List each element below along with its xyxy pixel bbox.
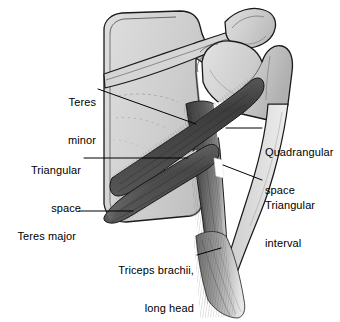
label-triangular-interval-line1: Triangular [265, 199, 335, 212]
label-triangular-interval: Triangular interval [265, 174, 335, 274]
label-quadrangular-space-line1: Quadrangular [265, 146, 340, 159]
label-triceps-line1: Triceps brachii, [112, 264, 194, 277]
label-triceps-line2: long head [112, 302, 194, 315]
label-triangular-interval-line2: interval [265, 237, 335, 250]
anatomical-figure: Teres minor Triangular space Teres major… [0, 0, 340, 322]
label-teres-minor-line1: Teres [40, 96, 96, 109]
label-triangular-space-line1: Triangular [19, 164, 81, 177]
label-teres-major: Teres major [10, 205, 76, 268]
label-teres-major-line1: Teres major [10, 230, 76, 243]
label-triceps-brachii-long-head: Triceps brachii, long head [112, 239, 194, 322]
